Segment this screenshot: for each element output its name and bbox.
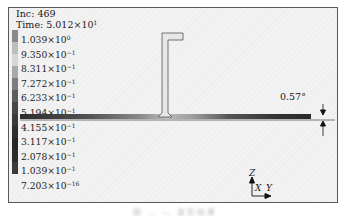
figure-caption: 图 — — 变形结果: [120, 206, 230, 214]
stiffener-web: [158, 33, 183, 117]
axis-z-label: Z: [249, 168, 255, 178]
axis-y-label: Y: [266, 183, 272, 193]
deformed-model: [0, 0, 344, 216]
axis-x-label: X: [255, 183, 261, 193]
angle-label: 0.57°: [280, 91, 306, 102]
